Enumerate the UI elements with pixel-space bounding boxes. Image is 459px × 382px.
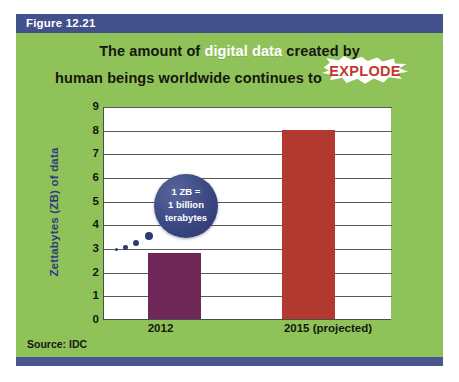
y-axis-title: Zettabytes (ZB) of data bbox=[48, 147, 60, 276]
bar-2015-projected- bbox=[282, 130, 335, 319]
y-axis-tick-4: 4 bbox=[81, 220, 99, 232]
y-axis-tick-5: 5 bbox=[81, 196, 99, 208]
figure-panel: Figure 12.21 The amount of digital data … bbox=[16, 14, 443, 366]
y-axis-tick-0: 0 bbox=[81, 314, 99, 326]
x-axis-label-2015: 2015 (projected) bbox=[248, 322, 408, 334]
x-axis-label-2012: 2012 bbox=[103, 322, 218, 334]
y-axis-tick-9: 9 bbox=[81, 101, 99, 113]
trail-dot-4 bbox=[115, 248, 118, 251]
gridline bbox=[104, 154, 392, 155]
callout-bubble-text: 1 ZB = 1 billion terabytes bbox=[154, 185, 218, 224]
source-label: Source: IDC bbox=[27, 338, 87, 350]
figure-footer-bar bbox=[16, 357, 443, 366]
trail-dot-3 bbox=[123, 245, 128, 250]
trail-dot-2 bbox=[133, 240, 139, 246]
callout-line-1: 1 ZB = bbox=[154, 185, 218, 198]
y-axis-tick-7: 7 bbox=[81, 149, 99, 161]
y-axis-tick-1: 1 bbox=[81, 291, 99, 303]
callout-bubble: 1 ZB = 1 billion terabytes bbox=[154, 174, 218, 238]
trail-dot-1 bbox=[145, 232, 153, 240]
gridline bbox=[104, 225, 392, 226]
y-axis-tick-2: 2 bbox=[81, 267, 99, 279]
bar-2012 bbox=[148, 253, 201, 319]
gridline bbox=[104, 107, 392, 108]
callout-line-3: terabytes bbox=[154, 211, 218, 224]
gridline bbox=[104, 202, 392, 203]
gridline bbox=[104, 178, 392, 179]
gridline bbox=[104, 131, 392, 132]
y-axis-tick-3: 3 bbox=[81, 243, 99, 255]
gridline bbox=[104, 249, 392, 250]
plot-area: 0123456789 bbox=[103, 107, 391, 320]
callout-line-2: 1 billion bbox=[154, 198, 218, 211]
y-axis-tick-6: 6 bbox=[81, 172, 99, 184]
y-axis-tick-8: 8 bbox=[81, 125, 99, 137]
bar-chart: Zettabytes (ZB) of data 0123456789 2012 … bbox=[16, 14, 443, 366]
